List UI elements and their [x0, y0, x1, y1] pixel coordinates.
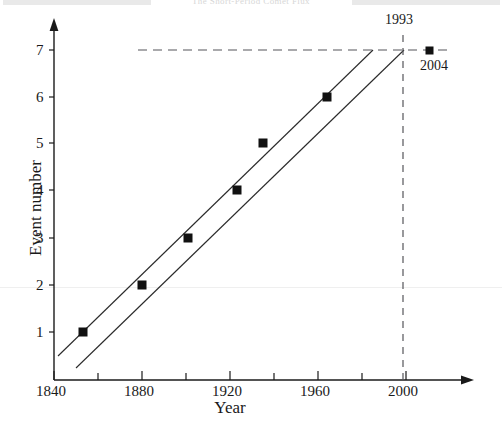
data-point-6 — [323, 93, 332, 102]
chart-figure: The Short-Period Comet Flux — [0, 0, 502, 424]
y-axis — [49, 18, 58, 380]
annotation-label-1993: 1993 — [385, 12, 413, 28]
data-point-5 — [259, 139, 268, 148]
annotation-label-2004: 2004 — [420, 58, 448, 74]
y-tick-label-6: 6 — [36, 89, 44, 106]
data-point-2 — [138, 281, 147, 290]
y-tick-label-1: 1 — [36, 324, 44, 341]
data-point-4 — [233, 186, 242, 195]
trend-lines — [58, 50, 404, 368]
y-axis-arrow — [50, 18, 59, 31]
x-axis-arrow — [461, 376, 474, 385]
y-axis-title: Event number — [26, 128, 46, 288]
x-axis-title: Year — [0, 398, 460, 418]
data-point-1 — [79, 328, 88, 337]
lower-bound-line — [76, 50, 404, 368]
y-tick-label-7: 7 — [36, 42, 44, 59]
data-points — [79, 47, 434, 337]
data-point-7-2004 — [426, 47, 434, 55]
data-point-3 — [184, 234, 193, 243]
